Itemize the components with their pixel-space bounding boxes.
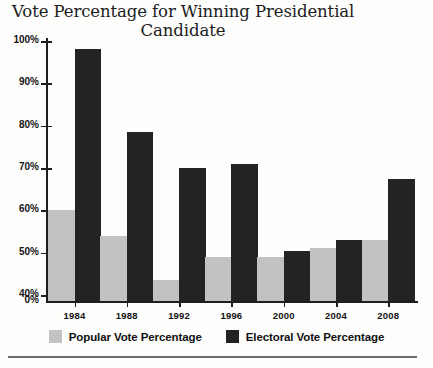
legend-entry-popular: Popular Vote Percentage (49, 330, 202, 343)
bar-popular-1988 (100, 236, 127, 301)
bar-popular-2000 (257, 257, 284, 301)
bar-popular-2008 (362, 240, 389, 301)
x-tick-mark-1992 (179, 301, 181, 307)
y-tick-label: 80% (19, 119, 39, 130)
bar-electoral-1988 (127, 132, 154, 301)
legend-swatch-icon-popular (49, 330, 62, 343)
x-tick-mark-1988 (127, 301, 129, 307)
x-axis-label-1996: 1996 (205, 310, 257, 321)
plot-area: 100%90%80%70%60%50%40%0% 198419881992199… (46, 38, 418, 303)
legend-label: Electoral Vote Percentage (246, 331, 385, 343)
x-axis-label-1988: 1988 (101, 310, 153, 321)
bar-electoral-2004 (336, 240, 363, 301)
bar-electoral-1996 (231, 164, 258, 301)
x-tick-mark-1996 (231, 301, 233, 307)
bar-popular-2004 (310, 248, 337, 301)
y-tick-label: 50% (19, 246, 39, 257)
bar-electoral-1984 (75, 49, 102, 301)
bar-popular-1984 (48, 210, 75, 301)
y-tick-mark (41, 83, 52, 85)
y-tick-label: 70% (19, 161, 39, 172)
legend-entry-electoral: Electoral Vote Percentage (226, 330, 385, 343)
y-tick-mark (41, 41, 52, 43)
chart-legend: Popular Vote PercentageElectoral Vote Pe… (0, 330, 433, 343)
bar-electoral-1992 (179, 168, 206, 301)
y-tick-label: 100% (13, 34, 39, 45)
x-tick-mark-2000 (284, 301, 286, 307)
x-axis-label-2000: 2000 (258, 310, 310, 321)
x-tick-mark-2004 (336, 301, 338, 307)
x-tick-mark-2008 (388, 301, 390, 307)
bar-popular-1996 (205, 257, 232, 301)
x-axis-label-2008: 2008 (362, 310, 414, 321)
y-tick-label: 60% (19, 203, 39, 214)
y-tick-mark (41, 168, 52, 170)
legend-label: Popular Vote Percentage (69, 331, 202, 343)
page-title: Vote Percentage for Winning Presidential… (12, 2, 424, 40)
bar-electoral-2000 (284, 251, 311, 301)
legend-swatch-icon-electoral (226, 330, 239, 343)
x-tick-mark-1984 (75, 301, 77, 307)
bar-electoral-2008 (388, 179, 415, 301)
bar-popular-1992 (153, 280, 180, 301)
y-tick-mark (41, 126, 52, 128)
x-axis-label-1992: 1992 (153, 310, 205, 321)
bottom-divider (8, 356, 417, 358)
chart-title-line-1: Vote Percentage for Winning Presidential (12, 2, 424, 21)
y-tick-label: 0% (25, 294, 39, 305)
y-tick-label: 90% (19, 76, 39, 87)
x-axis-label-2004: 2004 (310, 310, 362, 321)
x-axis-label-1984: 1984 (49, 310, 101, 321)
chart-figure: Vote Percentage for Winning Presidential… (0, 0, 433, 368)
